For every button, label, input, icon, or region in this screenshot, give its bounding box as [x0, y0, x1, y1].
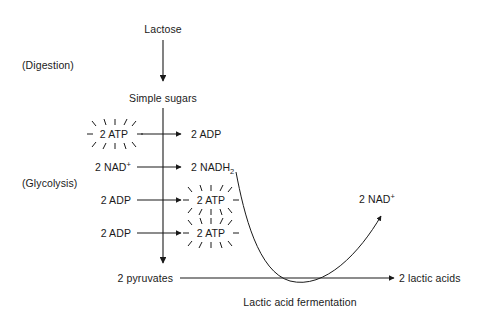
product-row-2-subscript: 2: [230, 167, 234, 176]
nad-plus-product-text: 2 NAD: [359, 193, 390, 205]
node-label-simple-sugars: Simple sugars: [129, 93, 197, 104]
product-label-row-1: 2 ADP: [191, 129, 221, 140]
node-label-lactose: Lactose: [144, 24, 181, 35]
reactant-label-row-4: 2 ADP: [101, 228, 131, 239]
caption-lactic-acid-fermentation: Lactic acid fermentation: [243, 297, 356, 308]
reactant-label-row-3: 2 ADP: [101, 195, 131, 206]
node-label-pyruvates: 2 pyruvates: [118, 273, 173, 284]
nad-plus-product-superscript: +: [390, 192, 394, 201]
stage-label-digestion: (Digestion): [22, 60, 74, 71]
product-label-row-2: 2 NADH2: [191, 162, 234, 173]
product-label-row-4: 2 ATP: [197, 228, 225, 239]
reactant-row-2-text: 2 NAD: [95, 161, 126, 173]
curve-nadh2-to-nad-plus: [236, 172, 381, 282]
product-row-2-text: 2 NADH: [191, 161, 230, 173]
stage-label-glycolysis: (Glycolysis): [22, 178, 77, 189]
diagram-canvas: Lactose Simple sugars (Digestion) (Glyco…: [0, 0, 479, 328]
reactant-row-2-superscript: +: [127, 160, 131, 169]
reactant-label-row-2: 2 NAD+: [95, 162, 131, 173]
node-label-lactic-acids: 2 lactic acids: [399, 273, 461, 284]
product-label-row-3: 2 ATP: [197, 195, 225, 206]
reactant-label-row-1: 2 ATP: [100, 129, 128, 140]
node-label-nad-plus-product: 2 NAD+: [359, 194, 395, 205]
